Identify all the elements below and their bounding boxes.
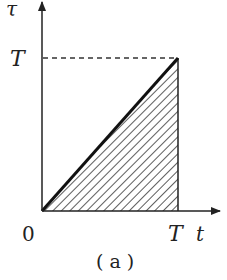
y-tick-label: T [10,46,27,71]
x-axis-label: t [196,222,205,246]
diagram-canvas: τ T 0 T t ( a ) [0,0,227,280]
caption: ( a ) [96,250,134,272]
origin-label: 0 [22,222,35,246]
y-axis-label: τ [6,0,18,21]
x-tick-label: T [168,221,185,246]
